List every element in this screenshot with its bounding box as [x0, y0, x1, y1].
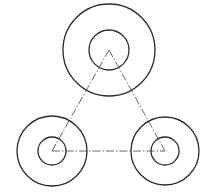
boss-circles: [17, 4, 199, 186]
centerline-triangle: [52, 50, 165, 151]
centerline-left-edge: [52, 50, 109, 151]
technical-drawing: [0, 0, 209, 196]
centerline-right-edge: [109, 50, 165, 151]
